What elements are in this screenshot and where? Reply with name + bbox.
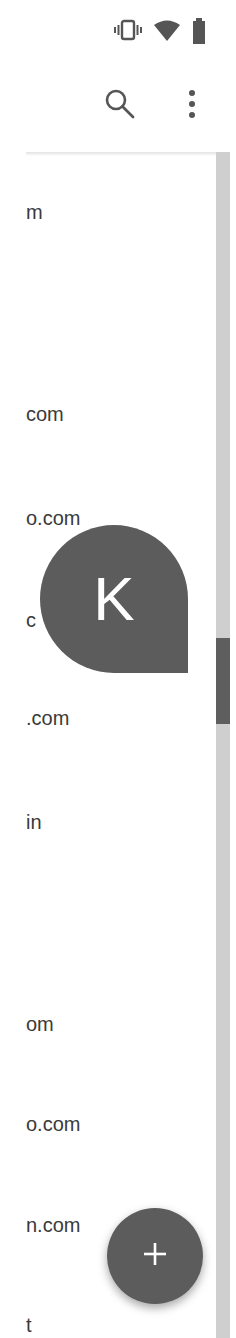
search-icon — [103, 87, 137, 125]
contact-email: in — [26, 810, 42, 834]
wifi-icon — [153, 19, 181, 47]
contact-email: om — [26, 1012, 54, 1036]
contact-email: t — [26, 1313, 32, 1337]
contact-email: m — [26, 200, 43, 224]
contact-email: c — [26, 608, 36, 632]
battery-icon — [192, 17, 206, 49]
plus-icon — [140, 1239, 170, 1273]
fast-scroll-thumb[interactable] — [216, 638, 230, 724]
vibrate-icon — [113, 18, 143, 46]
add-contact-button[interactable] — [107, 1208, 203, 1304]
list-item[interactable] — [0, 258, 216, 358]
fast-scroll-index-bubble: K — [40, 525, 188, 673]
more-options-button[interactable] — [172, 86, 212, 126]
list-item[interactable]: in — [0, 766, 216, 866]
toolbar — [0, 48, 236, 152]
contact-email: n.com — [26, 1213, 80, 1237]
status-bar — [0, 0, 236, 48]
list-item[interactable]: .com — [0, 662, 216, 762]
more-vert-icon — [187, 87, 197, 125]
list-item[interactable] — [0, 868, 216, 968]
contact-email: o.com — [26, 1112, 80, 1136]
list-item[interactable]: o.com — [0, 1068, 216, 1168]
list-item[interactable]: com — [0, 358, 216, 458]
contact-email: com — [26, 402, 64, 426]
list-item[interactable]: om — [0, 968, 216, 1068]
contact-email: .com — [26, 706, 69, 730]
index-letter: K — [93, 568, 134, 630]
fast-scroll-track[interactable] — [216, 152, 230, 1338]
list-item[interactable]: m — [0, 156, 216, 256]
contact-email: o.com — [26, 506, 80, 530]
search-button[interactable] — [100, 86, 140, 126]
